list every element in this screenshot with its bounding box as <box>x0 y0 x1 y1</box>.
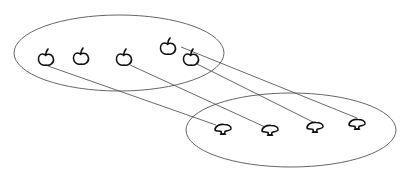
mushroom-icon <box>215 124 231 134</box>
diagram-svg <box>0 0 408 180</box>
set-ellipses <box>14 15 396 167</box>
mapping-lines <box>48 47 357 127</box>
set-elements <box>38 38 365 135</box>
apple-icon <box>38 49 53 65</box>
mushroom-icon <box>307 122 323 132</box>
mushroom-icon <box>349 119 365 129</box>
mushroom-icon <box>262 125 278 135</box>
apple-icon <box>183 49 198 65</box>
apple-icon <box>160 38 175 54</box>
set-mushrooms-ellipse <box>186 93 396 167</box>
apple-icon <box>116 49 131 65</box>
set-mapping-diagram <box>0 0 408 180</box>
apple-icon <box>73 48 88 64</box>
mapping-line-apple-1-to-mushroom-1 <box>48 66 216 125</box>
mapping-line-apple-3-to-mushroom-2 <box>130 65 265 127</box>
